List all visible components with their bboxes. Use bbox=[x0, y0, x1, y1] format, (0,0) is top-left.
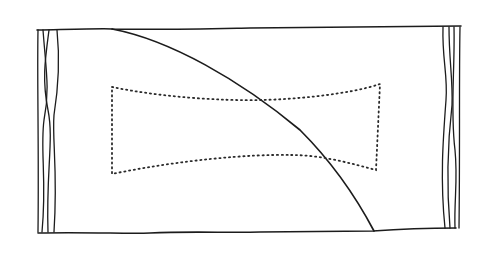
bowtie-dotted-shape bbox=[112, 84, 380, 174]
right-edge-rope-strands bbox=[442, 27, 460, 228]
left-edge-rope-strands bbox=[38, 30, 59, 232]
descending-curve bbox=[112, 29, 374, 231]
sketch-drawing bbox=[0, 0, 497, 254]
rectangle-outline bbox=[37, 26, 461, 233]
